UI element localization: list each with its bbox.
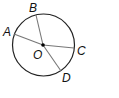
segment-od [43, 45, 61, 71]
label-d: D [62, 71, 71, 85]
circle-diagram: A B C D O [0, 0, 119, 98]
label-o: O [33, 48, 42, 62]
label-c: C [77, 44, 86, 58]
segment-oc [43, 45, 74, 48]
segment-ob [36, 15, 43, 45]
center-point [41, 43, 45, 47]
segment-oa [14, 34, 43, 45]
label-b: B [29, 1, 37, 15]
label-a: A [2, 25, 11, 39]
